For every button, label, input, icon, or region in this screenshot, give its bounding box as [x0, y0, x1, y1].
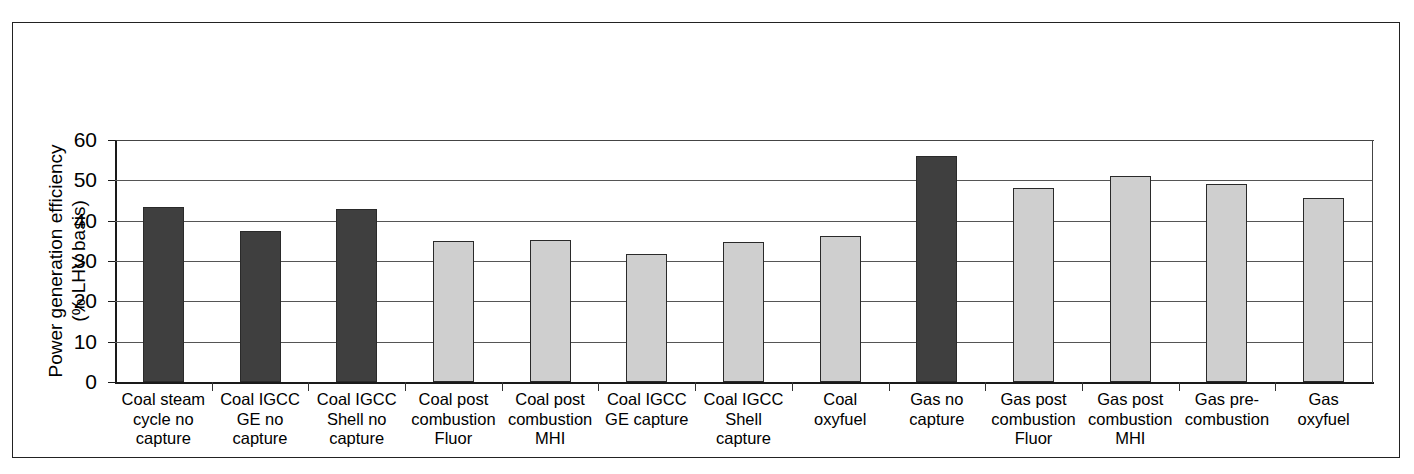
bar	[626, 254, 667, 382]
y-tick-label: 40	[13, 209, 97, 233]
x-tick-label: Gas post combustion Fluor	[985, 390, 1082, 449]
bar	[336, 209, 377, 382]
chart-figure: Power generation efficiency (% LHV basis…	[0, 0, 1414, 474]
x-tick-label: Coal post combustion Fluor	[405, 390, 502, 449]
x-tick-label: Coal IGCC GE capture	[598, 390, 695, 429]
x-axis-line	[115, 382, 1374, 384]
gridline	[115, 221, 1372, 222]
x-tick-mark	[598, 382, 599, 391]
bar	[723, 242, 764, 382]
bar	[1303, 198, 1344, 382]
bar	[820, 236, 861, 382]
x-tick-label: Coal IGCC Shell no capture	[308, 390, 405, 449]
gridline	[115, 180, 1372, 181]
figure-frame: Power generation efficiency (% LHV basis…	[12, 22, 1400, 458]
x-tick-mark	[212, 382, 213, 391]
bar	[143, 207, 184, 382]
bar	[433, 241, 474, 382]
x-tick-mark	[405, 382, 406, 391]
x-tick-mark	[308, 382, 309, 391]
y-tick-label: 50	[13, 168, 97, 192]
y-tick-mark	[108, 180, 115, 181]
y-tick-mark	[108, 221, 115, 222]
x-tick-mark	[695, 382, 696, 391]
y-tick-label: 10	[13, 330, 97, 354]
x-tick-label: Coal post combustion MHI	[502, 390, 599, 449]
x-tick-label: Gas pre- combustion	[1179, 390, 1276, 429]
x-tick-mark	[889, 382, 890, 391]
y-tick-label: 60	[13, 128, 97, 152]
x-tick-label: Coal oxyfuel	[792, 390, 889, 429]
bar	[1110, 176, 1151, 382]
x-tick-mark	[1179, 382, 1180, 391]
y-tick-mark	[108, 301, 115, 302]
x-tick-label: Coal IGCC GE no capture	[212, 390, 309, 449]
y-tick-mark	[108, 382, 115, 383]
x-tick-mark	[792, 382, 793, 391]
y-tick-label: 0	[13, 370, 97, 394]
y-tick-mark	[108, 140, 115, 141]
x-tick-mark	[1082, 382, 1083, 391]
y-tick-mark	[108, 261, 115, 262]
x-tick-label: Gas post combustion MHI	[1082, 390, 1179, 449]
y-tick-label: 30	[13, 249, 97, 273]
bar	[1013, 188, 1054, 382]
x-tick-mark	[985, 382, 986, 391]
bar	[240, 231, 281, 382]
x-tick-label: Coal steam cycle no capture	[115, 390, 212, 449]
bar	[1206, 184, 1247, 382]
plot-right-edge	[1372, 140, 1373, 383]
x-tick-mark	[502, 382, 503, 391]
x-tick-mark	[1275, 382, 1276, 391]
x-tick-label: Coal IGCC Shell capture	[695, 390, 792, 449]
bar	[916, 156, 957, 382]
x-tick-label: Gas no capture	[889, 390, 986, 429]
y-tick-label: 20	[13, 289, 97, 313]
y-tick-mark	[108, 342, 115, 343]
bar	[530, 240, 571, 382]
x-tick-label: Gas oxyfuel	[1275, 390, 1372, 429]
